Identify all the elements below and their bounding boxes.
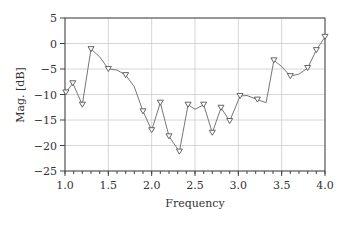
x-tick-label: 2.5 — [186, 179, 204, 192]
triangle-down-marker — [209, 130, 215, 135]
x-axis: 1.01.52.02.53.03.54.0 — [56, 171, 334, 192]
triangle-down-marker — [166, 134, 172, 139]
y-axis: 50−5−10−15−20−25 — [34, 12, 65, 178]
y-tick-label: −20 — [34, 140, 57, 153]
y-tick-label: −10 — [34, 89, 57, 102]
triangle-down-marker — [201, 102, 207, 107]
y-tick-label: 0 — [50, 38, 57, 51]
x-tick-label: 2.0 — [143, 179, 161, 192]
x-tick-label: 3.0 — [230, 179, 248, 192]
grid-lines — [65, 18, 325, 171]
triangle-down-marker — [123, 73, 129, 78]
triangle-down-marker — [218, 105, 224, 110]
triangle-down-marker — [140, 109, 146, 114]
triangle-down-marker — [157, 100, 163, 105]
y-tick-label: 5 — [50, 12, 57, 25]
x-tick-label: 4.0 — [316, 179, 334, 192]
triangle-down-marker — [79, 102, 85, 107]
triangle-down-marker — [254, 97, 260, 102]
triangle-down-marker — [227, 119, 233, 124]
triangle-down-marker — [176, 149, 182, 154]
x-tick-label: 3.5 — [273, 179, 291, 192]
y-tick-label: −5 — [41, 63, 57, 76]
x-axis-title: Frequency — [165, 197, 225, 210]
triangle-down-marker — [70, 81, 76, 86]
y-tick-label: −25 — [34, 165, 57, 178]
triangle-down-marker — [313, 48, 319, 53]
triangle-down-marker — [287, 74, 293, 79]
triangle-down-marker — [322, 34, 328, 39]
triangle-down-marker — [149, 128, 155, 133]
y-axis-title: Mag. [dB] — [14, 67, 27, 123]
x-tick-label: 1.0 — [56, 179, 74, 192]
x-tick-label: 1.5 — [100, 179, 118, 192]
line-chart: 50−5−10−15−20−25 1.01.52.02.53.03.54.0 F… — [0, 0, 344, 226]
y-tick-label: −15 — [34, 114, 57, 127]
